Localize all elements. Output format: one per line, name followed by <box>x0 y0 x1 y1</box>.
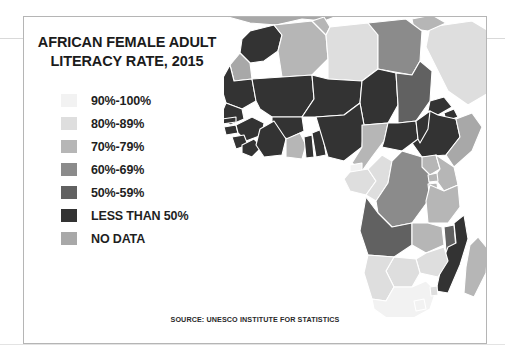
africa-map <box>220 17 487 317</box>
legend-item-label: 50%-59% <box>91 186 144 200</box>
legend-swatch-icon <box>61 94 77 107</box>
legend-panel: AFRICAN FEMALE ADULT LITERACY RATE, 2015… <box>24 17 224 343</box>
legend-swatch-icon <box>61 186 77 199</box>
legend-swatch-icon <box>61 117 77 130</box>
legend-item-80-89[interactable]: 80%-89% <box>61 112 188 135</box>
legend-item-50-59[interactable]: 50%-59% <box>61 181 188 204</box>
legend-item-70-79[interactable]: 70%-79% <box>61 135 188 158</box>
legend-item-no-data[interactable]: NO DATA <box>61 227 188 250</box>
title-line-2: LITERACY RATE, 2015 <box>36 52 218 71</box>
legend-item-label: NO DATA <box>91 232 145 246</box>
infographic-page: AFRICAN FEMALE ADULT LITERACY RATE, 2015… <box>0 0 505 364</box>
region-libya <box>326 23 378 81</box>
legend-item-label: 60%-69% <box>91 163 144 177</box>
legend-swatch-icon <box>61 209 77 222</box>
title-line-1: AFRICAN FEMALE ADULT <box>36 33 218 52</box>
legend-item-label: 70%-79% <box>91 140 144 154</box>
region-swaziland <box>430 286 438 296</box>
region-lesotho <box>414 299 426 311</box>
legend-swatch-icon <box>61 163 77 176</box>
source-note: SOURCE: UNESCO INSTITUTE FOR STATISTICS <box>24 315 486 324</box>
legend-item-label: 90%-100% <box>91 94 151 108</box>
scan-rule-bottom <box>0 344 505 345</box>
legend-item-less-than-50[interactable]: LESS THAN 50% <box>61 204 188 227</box>
legend-item-90-100[interactable]: 90%-100% <box>61 89 188 112</box>
page-title: AFRICAN FEMALE ADULT LITERACY RATE, 2015 <box>36 33 218 71</box>
infographic-card: AFRICAN FEMALE ADULT LITERACY RATE, 2015… <box>23 16 487 344</box>
legend-item-label: LESS THAN 50% <box>91 209 188 223</box>
legend-swatch-icon <box>61 140 77 153</box>
legend-item-60-69[interactable]: 60%-69% <box>61 158 188 181</box>
africa-map-svg <box>220 17 487 317</box>
legend-swatch-icon <box>61 232 77 245</box>
legend: 90%-100% 80%-89% 70%-79% 60%-69% 50%-59% <box>61 89 188 250</box>
legend-item-label: 80%-89% <box>91 117 144 131</box>
region-rwanda <box>428 173 438 182</box>
